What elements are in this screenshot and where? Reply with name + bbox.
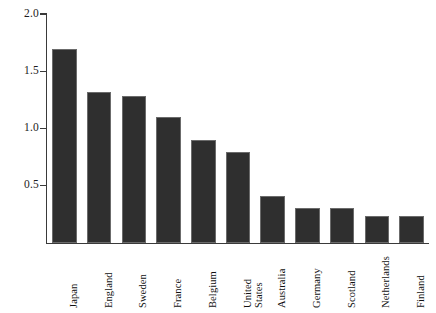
category-label: England: [104, 248, 115, 308]
category-label: France: [173, 248, 184, 308]
chart-canvas: 0.51.01.52.0 JapanEnglandSwedenFranceBel…: [0, 0, 436, 313]
category-label: Belgium: [208, 248, 219, 308]
category-label: Scotland: [347, 248, 358, 308]
category-label: Australia: [277, 248, 288, 308]
bar: [365, 216, 390, 243]
bar: [260, 196, 285, 243]
category-label: Netherlands: [381, 248, 392, 308]
bar: [87, 92, 112, 243]
plot-area: 0.51.01.52.0 JapanEnglandSwedenFranceBel…: [0, 0, 436, 313]
category-label: Japan: [69, 248, 80, 308]
bar: [52, 49, 77, 243]
category-label: Sweden: [138, 248, 149, 308]
bar: [399, 216, 424, 243]
category-label: United States: [243, 248, 265, 308]
bar: [191, 140, 216, 243]
category-label: Finland: [416, 248, 427, 308]
bar: [122, 96, 147, 243]
bar: [226, 152, 251, 243]
bar: [330, 208, 355, 243]
bar: [156, 117, 181, 243]
category-label: Germany: [312, 248, 323, 308]
bar: [295, 208, 320, 243]
